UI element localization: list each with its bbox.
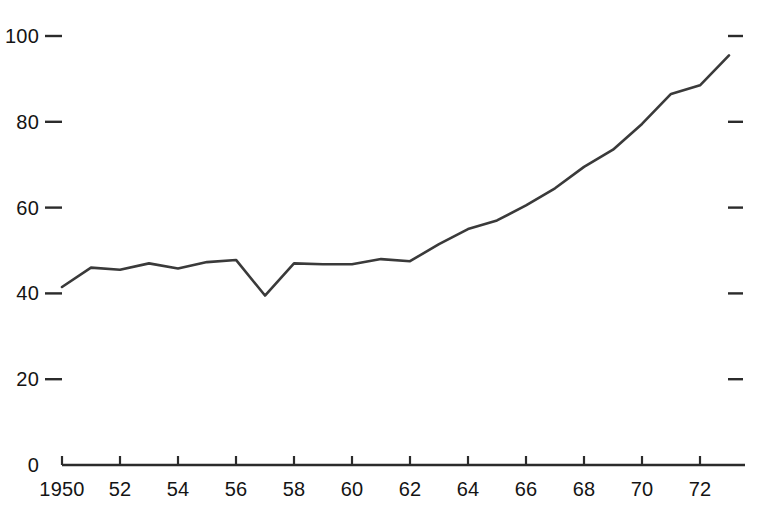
y-axis-tick-label: 0 xyxy=(28,454,39,477)
data-series-line xyxy=(62,55,729,295)
line-chart-figure: 020406080100 19505254565860626466687072 xyxy=(0,0,758,525)
chart-canvas xyxy=(0,0,758,525)
x-axis-tick-label: 66 xyxy=(515,478,538,501)
y-axis-tick-marks-left xyxy=(45,36,62,379)
x-axis-tick-label: 58 xyxy=(283,478,306,501)
x-axis-tick-label: 70 xyxy=(631,478,654,501)
y-axis-tick-marks-right xyxy=(728,36,743,379)
y-axis-tick-label: 20 xyxy=(16,368,39,391)
x-axis-tick-label: 64 xyxy=(457,478,480,501)
x-axis-tick-label: 54 xyxy=(167,478,190,501)
x-axis-tick-marks xyxy=(62,456,700,465)
y-axis-tick-label: 80 xyxy=(16,110,39,133)
x-axis-tick-label: 52 xyxy=(109,478,132,501)
y-axis-tick-label: 100 xyxy=(5,25,39,48)
x-axis-tick-label: 68 xyxy=(573,478,596,501)
x-axis-tick-label: 60 xyxy=(341,478,364,501)
y-axis-tick-label: 40 xyxy=(16,282,39,305)
x-axis-tick-label: 1950 xyxy=(39,478,84,501)
x-axis-tick-label: 56 xyxy=(225,478,248,501)
x-axis-tick-label: 62 xyxy=(399,478,422,501)
x-axis-tick-label: 72 xyxy=(689,478,712,501)
y-axis-tick-label: 60 xyxy=(16,196,39,219)
